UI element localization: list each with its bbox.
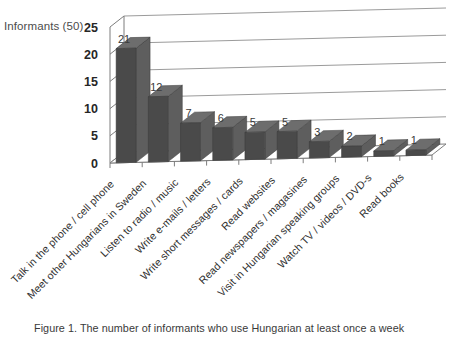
bar bbox=[116, 37, 150, 163]
y-tick-label: 15 bbox=[84, 75, 98, 89]
figure-container: Informants (50) 0510152025 211276553211 … bbox=[0, 0, 458, 339]
bar-value-label: 1 bbox=[411, 134, 417, 146]
bar-value-label: 2 bbox=[346, 130, 352, 142]
bar-chart: 0510152025 211276553211 Talk in the phon… bbox=[0, 0, 458, 339]
bar-value-label: 6 bbox=[218, 112, 224, 124]
x-axis-category-label: Meet other Hungarians in Sweden bbox=[24, 177, 148, 301]
bar-value-label: 21 bbox=[118, 33, 130, 45]
category-labels-group: Talk in the phone / cell phoneMeet other… bbox=[9, 155, 432, 301]
bar-value-label: 12 bbox=[150, 81, 162, 93]
y-tick-label: 10 bbox=[84, 102, 98, 116]
bar-value-label: 5 bbox=[282, 116, 288, 128]
bar-value-label: 5 bbox=[250, 116, 256, 128]
y-tick-label: 20 bbox=[84, 48, 98, 62]
bar-value-label: 7 bbox=[185, 107, 191, 119]
y-tick-label: 0 bbox=[91, 157, 98, 171]
y-tick-label: 25 bbox=[84, 21, 98, 35]
bar bbox=[148, 85, 182, 162]
bar-value-label: 3 bbox=[314, 126, 320, 138]
bars-group bbox=[116, 37, 440, 163]
figure-caption: Figure 1. The number of informants who u… bbox=[34, 322, 404, 334]
bar-value-label: 1 bbox=[379, 135, 385, 147]
y-tick-label: 5 bbox=[91, 129, 98, 143]
